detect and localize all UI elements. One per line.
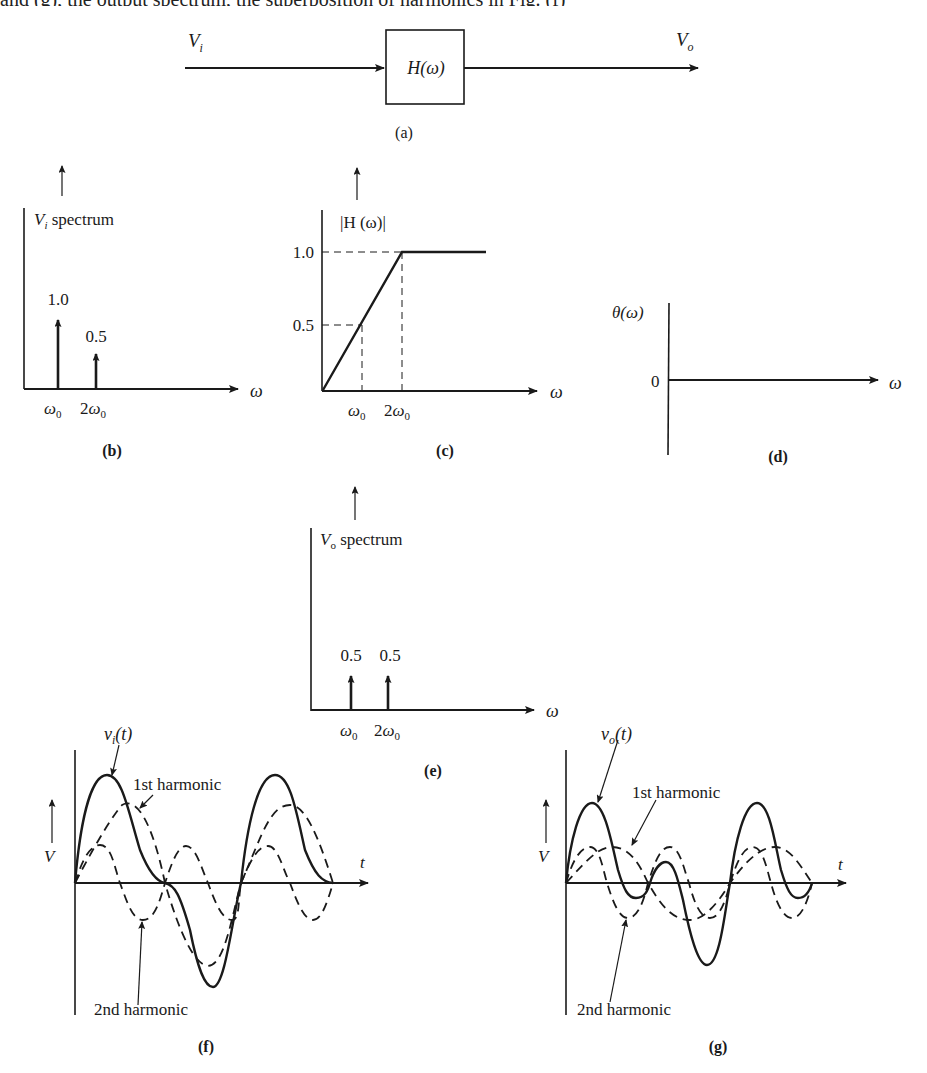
block-label: H(ω) [406,58,445,79]
panel-f-input-waveform: V t vi(t) 1st harmonic 2nd harmonic (f) [44,724,368,1056]
tick-2w0: 2ω0 [374,721,401,742]
vi-label: vi(t) [104,724,132,747]
h2-pointer-arrow-icon [610,920,626,1002]
magnitude-title: |H (ω)| [340,213,386,232]
panel-d-phase-response: θ(ω) 0 ω (d) [612,303,902,466]
phase-title: θ(ω) [612,303,644,322]
first-harmonic-curve [75,803,333,966]
x-axis-label: t [360,853,366,872]
spike-label-2: 0.5 [379,646,400,665]
spike-label-1: 1.0 [47,290,68,309]
y-tick-1.0: 1.0 [293,243,314,262]
caption-e: (e) [424,762,442,780]
panel-e-output-spectrum: Vo spectrum 0.5 0.5 ω ω0 2ω0 (e) [311,487,559,780]
vi-signal-curve [75,775,333,987]
vo-label: vo(t) [601,724,632,747]
spike-label-1: 0.5 [340,646,361,665]
panel-a-block-diagram: Vi Vo H(ω) (a) [185,29,698,142]
x-axis-label: ω [250,381,263,401]
y-tick-0.5: 0.5 [293,316,314,335]
y-axis [668,303,669,455]
h2-pointer-arrow-icon [138,922,142,1005]
y-axis-label: V [538,847,551,866]
y-axis-label: V [44,847,57,866]
h1-pointer-arrow-icon [140,795,153,808]
caption-g: (g) [709,1038,728,1056]
caption-d: (d) [768,448,788,466]
tick-2w0: 2ω0 [80,399,107,420]
vi-pointer-arrow-icon [112,745,119,775]
panel-g-output-waveform: V t vo(t) 1st harmonic 2nd harmonic (g) [538,724,846,1056]
first-harmonic-label: 1st harmonic [632,783,721,802]
tick-w0: ω0 [348,401,366,422]
caption-f: (f) [198,1038,214,1056]
zero-label: 0 [651,372,660,391]
svg-text:Vi: Vi [188,30,203,55]
tick-2w0: 2ω0 [384,401,411,422]
svg-text:Vi spectrum: Vi spectrum [34,210,114,231]
x-axis-label: t [838,855,844,874]
panel-c-magnitude-response: |H (ω)| 1.0 0.5 ω ω0 2ω0 (c) [293,168,563,460]
second-harmonic-label: 2nd harmonic [577,1000,671,1019]
panel-b-input-spectrum: Vi spectrum 1.0 0.5 ω ω0 2ω0 (b) [24,166,263,460]
magnitude-curve [323,252,486,390]
caption-a: (a) [395,124,413,142]
first-harmonic-label: 1st harmonic [133,775,222,794]
caption-b: (b) [102,442,122,460]
x-axis-label: ω [889,373,902,393]
svg-text:Vo spectrum: Vo spectrum [320,530,402,551]
h1-pointer-arrow-icon [632,800,656,845]
tick-w0: ω0 [340,721,358,742]
x-axis-label: ω [546,701,559,721]
caption-c: (c) [436,442,454,460]
x-axis-label: ω [550,382,563,402]
spike-label-2: 0.5 [85,327,106,346]
svg-text:Vo: Vo [676,29,694,54]
second-harmonic-label: 2nd harmonic [94,1000,188,1019]
tick-w0: ω0 [44,399,62,420]
vo-pointer-arrow-icon [598,740,618,802]
